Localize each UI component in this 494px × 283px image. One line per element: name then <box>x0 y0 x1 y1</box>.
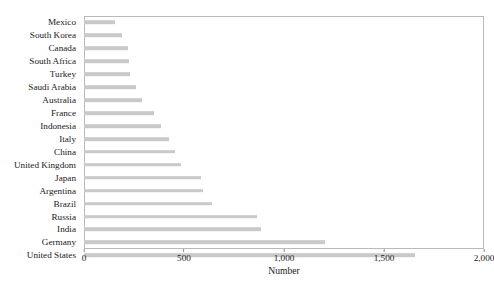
bar-row <box>84 94 484 107</box>
bar <box>84 59 129 63</box>
x-axis-tick-label: 2,000 <box>474 252 494 264</box>
bar <box>84 47 128 51</box>
bar-row <box>84 171 484 184</box>
bar <box>84 150 175 154</box>
bar <box>84 176 201 180</box>
y-axis-label: United Kingdom <box>0 158 80 171</box>
y-axis-label: India <box>0 223 80 236</box>
x-axis-title: Number <box>84 265 484 276</box>
y-axis-label: Germany <box>0 236 80 249</box>
y-axis-label: Russia <box>0 210 80 223</box>
y-axis-label-text: Saudi Arabia <box>28 82 76 92</box>
bar <box>84 202 212 206</box>
y-axis-label-text: Japan <box>55 173 76 183</box>
bar-row <box>84 55 484 68</box>
bar-series <box>84 16 484 249</box>
y-axis-label: Turkey <box>0 68 80 81</box>
bar-row <box>84 81 484 94</box>
bar-row <box>84 16 484 29</box>
bar <box>84 137 169 141</box>
x-axis-tick: 1,000 <box>274 249 295 264</box>
y-axis-label: Brazil <box>0 197 80 210</box>
y-axis-label-text: Canada <box>48 43 76 53</box>
bar-row <box>84 184 484 197</box>
y-axis-label-text: Mexico <box>48 17 76 27</box>
y-axis-label: Indonesia <box>0 120 80 133</box>
y-axis-label-text: Germany <box>42 237 76 247</box>
bar <box>84 189 203 193</box>
bar <box>84 98 142 102</box>
bar-row <box>84 29 484 42</box>
x-axis-tick: 2,000 <box>474 249 494 264</box>
bar-row <box>84 145 484 158</box>
x-axis-tick-label: 1,000 <box>274 252 295 264</box>
y-axis-label: France <box>0 107 80 120</box>
x-axis-tick: 500 <box>177 249 191 264</box>
y-axis-label-text: United States <box>27 250 76 260</box>
bar-row <box>84 236 484 249</box>
y-axis-category-labels: MexicoSouth KoreaCanadaSouth AfricaTurke… <box>0 16 80 249</box>
y-axis-label-text: Turkey <box>50 69 76 79</box>
bar-row <box>84 42 484 55</box>
y-axis-label-text: Indonesia <box>40 121 76 131</box>
bar <box>84 21 115 25</box>
y-axis-label: Japan <box>0 171 80 184</box>
bar-row <box>84 223 484 236</box>
bar-row <box>84 120 484 133</box>
bar <box>84 34 122 38</box>
y-axis-label-text: Australia <box>42 95 76 105</box>
bar <box>84 124 161 128</box>
bar <box>84 72 130 76</box>
x-axis-tick-label: 1,500 <box>374 252 395 264</box>
y-axis-label-text: Italy <box>59 134 76 144</box>
y-axis-label: South Korea <box>0 29 80 42</box>
chart-title-cropped <box>0 0 491 9</box>
y-axis-label: Canada <box>0 42 80 55</box>
bar <box>84 215 257 219</box>
y-axis-label: Argentina <box>0 184 80 197</box>
x-axis-tick: 1,500 <box>374 249 395 264</box>
bar <box>84 228 261 232</box>
y-axis-label-text: India <box>57 224 76 234</box>
x-axis-ticks: 05001,0001,5002,000 <box>84 249 484 265</box>
bar-row <box>84 68 484 81</box>
y-axis-label-text: South Africa <box>29 56 76 66</box>
bar-row <box>84 132 484 145</box>
x-axis-tick-label: 500 <box>177 252 191 264</box>
bar <box>84 85 136 89</box>
bar <box>84 241 325 245</box>
y-axis-label: Australia <box>0 94 80 107</box>
y-axis-label-text: United Kingdom <box>14 160 76 170</box>
x-axis-tick-label: 0 <box>82 252 87 264</box>
y-axis-label-text: France <box>51 108 76 118</box>
y-axis-label-text: China <box>54 147 76 157</box>
y-axis-label: United States <box>0 249 80 262</box>
bar-row <box>84 107 484 120</box>
bar-row <box>84 210 484 223</box>
y-axis-label-text: Brazil <box>54 199 76 209</box>
y-axis-label: South Africa <box>0 55 80 68</box>
y-axis-label-text: Argentina <box>39 186 76 196</box>
x-axis-tick: 0 <box>82 249 87 264</box>
y-axis-label-text: South Korea <box>30 30 76 40</box>
bar-row <box>84 158 484 171</box>
y-axis-label-text: Russia <box>51 212 76 222</box>
bar <box>84 163 181 167</box>
y-axis-label: Italy <box>0 132 80 145</box>
bar-row <box>84 197 484 210</box>
y-axis-label: Saudi Arabia <box>0 81 80 94</box>
y-axis-label: China <box>0 145 80 158</box>
y-axis-label: Mexico <box>0 16 80 29</box>
bar <box>84 111 154 115</box>
